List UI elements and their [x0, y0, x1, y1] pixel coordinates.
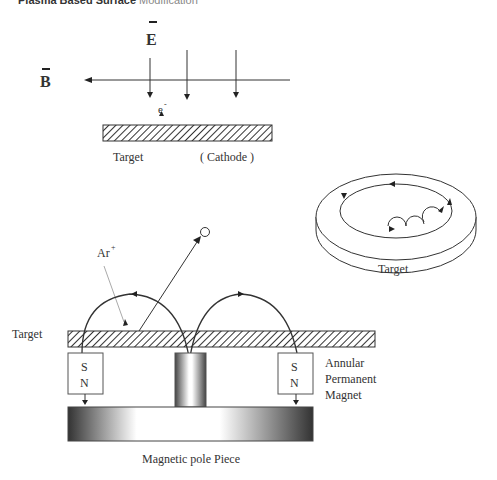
ion-label: Ar: [97, 246, 110, 260]
b-field-label: B: [40, 73, 51, 90]
center-pole: [175, 353, 206, 407]
target-cathode-plate: [103, 125, 272, 141]
field-diagram: E B e - Target ( Cathode ): [40, 22, 290, 164]
magnetic-field-arc-left: [82, 294, 189, 357]
magnet-right-north: N: [290, 376, 299, 390]
field-arrow-icon: [238, 291, 244, 297]
annular-label-line-3: Magnet: [325, 388, 362, 402]
arrow-down-icon: [82, 400, 88, 405]
ring-target-diagram: Target: [316, 174, 476, 276]
arrow-down-icon: [293, 400, 299, 405]
magnetron-target-plate: [68, 331, 375, 347]
arrow-head-icon: [184, 94, 190, 100]
magnetic-field-arc-right: [190, 294, 297, 357]
field-arrow-icon: [131, 291, 137, 297]
e-field-label: E: [146, 31, 157, 48]
magnetron-diagram: Ar + Target S N S N Annular Permanent Ma…: [12, 228, 377, 467]
magnet-left-north: N: [80, 376, 89, 390]
sputtering-diagram: E B e - Target ( Cathode ) Target: [0, 0, 497, 480]
magnet-left-south: S: [81, 360, 88, 374]
annular-label-line-1: Annular: [325, 356, 364, 370]
magnet-right-south: S: [291, 360, 298, 374]
magnetic-pole-piece: [68, 407, 313, 441]
ion-charge: +: [111, 243, 116, 252]
ring-target-label: Target: [378, 262, 409, 276]
arrow-left-icon: [84, 77, 92, 83]
sputtered-atom: [201, 228, 210, 237]
ion-trajectory: [104, 266, 124, 322]
cathode-label: ( Cathode ): [200, 150, 254, 164]
target-label: Target: [113, 150, 144, 164]
magnetron-target-label: Target: [12, 327, 43, 341]
sputter-trajectory: [139, 242, 197, 331]
arrow-head-icon: [233, 92, 239, 98]
annular-label-line-2: Permanent: [325, 372, 377, 386]
electron-charge: -: [164, 100, 167, 109]
arrow-head-icon: [147, 92, 153, 98]
pole-piece-label: Magnetic pole Piece: [142, 452, 240, 466]
